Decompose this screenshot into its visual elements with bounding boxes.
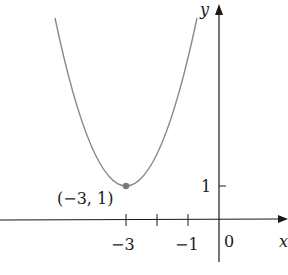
y-axis-arrow-icon [215, 4, 223, 15]
parabola-curve [55, 18, 197, 186]
y-axis-label: y [199, 0, 210, 19]
x-tick-label-neg1: −1 [175, 235, 199, 254]
vertex-point [123, 183, 129, 189]
x-axis-label: x [279, 232, 288, 251]
x-axis [0, 219, 280, 220]
vertex-label: (−3, 1) [57, 189, 113, 208]
x-tick-label-neg3: −3 [111, 235, 135, 254]
y-tick-label-1: 1 [201, 177, 211, 196]
origin-label: 0 [224, 232, 234, 251]
x-axis-arrow-icon [278, 215, 288, 223]
parabola-chart: (−3, 1) −3 −1 0 x 1 y [0, 0, 288, 275]
